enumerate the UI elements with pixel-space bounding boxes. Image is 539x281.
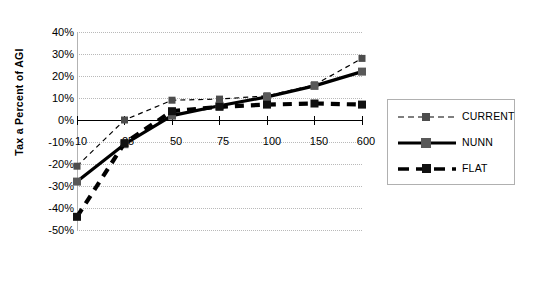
legend-label-current: CURRENT bbox=[462, 110, 515, 122]
series-marker bbox=[121, 117, 128, 124]
series-marker bbox=[216, 103, 224, 111]
legend-swatch-flat bbox=[396, 156, 458, 182]
series-marker bbox=[358, 68, 366, 76]
series-marker bbox=[121, 139, 129, 147]
series-line bbox=[77, 58, 362, 166]
legend-item-current[interactable]: CURRENT bbox=[388, 104, 514, 130]
series-marker bbox=[311, 82, 319, 90]
series-marker bbox=[73, 178, 81, 186]
chart-root: 40% 30% 20% 10% 0% -10% -20% -30% -40% -… bbox=[0, 0, 539, 281]
series-marker bbox=[73, 213, 81, 221]
chart-legend: CURRENT NUNN FLAT bbox=[387, 99, 515, 185]
series-line bbox=[77, 104, 362, 217]
series-flat bbox=[73, 100, 366, 221]
series-line bbox=[77, 72, 362, 182]
legend-swatch-current bbox=[396, 104, 458, 130]
series-current bbox=[74, 55, 366, 170]
legend-item-nunn[interactable]: NUNN bbox=[388, 130, 514, 156]
legend-label-flat: FLAT bbox=[462, 162, 488, 174]
series-marker bbox=[358, 101, 366, 109]
legend-label-nunn: NUNN bbox=[462, 136, 493, 148]
legend-item-flat[interactable]: FLAT bbox=[388, 156, 514, 182]
series-marker bbox=[74, 163, 81, 170]
series-marker bbox=[168, 107, 176, 115]
legend-swatch-nunn bbox=[396, 130, 458, 156]
series-marker bbox=[311, 100, 319, 108]
series-marker bbox=[359, 55, 366, 62]
series-marker bbox=[263, 101, 271, 109]
series-marker bbox=[216, 96, 223, 103]
series-marker bbox=[169, 97, 176, 104]
series-marker bbox=[263, 93, 271, 101]
